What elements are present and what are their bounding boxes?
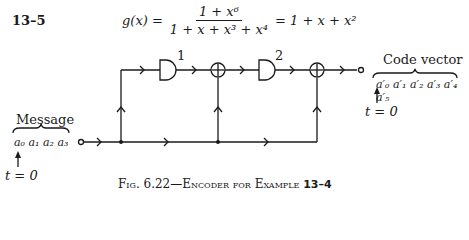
junction-dot-icon — [119, 140, 123, 144]
input-terminal-icon — [79, 140, 84, 145]
caption-prefix: Fig. 6.22—Encoder for Example — [118, 177, 303, 191]
code-vector-title: Code vector — [383, 52, 463, 67]
output-time-label: t = 0 — [365, 104, 398, 119]
delay-gate-2-icon — [259, 60, 275, 80]
time-arrow-up-icon — [15, 151, 21, 158]
junction-dot-icon — [216, 140, 220, 144]
output-terminal-icon — [359, 68, 364, 73]
message-title: Message — [16, 112, 74, 127]
input-time-label: t = 0 — [5, 168, 38, 183]
figure-caption: Fig. 6.22—Encoder for Example 13–4 — [118, 177, 332, 191]
code-vector-sequence: a′₀ a′₁ a′₂ a′₃ a′₄ a′₅ — [376, 78, 469, 104]
gate-2-label: 2 — [275, 48, 283, 63]
message-sequence: a₀ a₁ a₂ a₃ — [14, 136, 68, 149]
gate-1-label: 1 — [177, 48, 185, 63]
delay-gate-1-icon — [160, 60, 176, 80]
caption-example-number: 13–4 — [303, 178, 331, 191]
code-vector-brace-icon — [373, 69, 457, 78]
